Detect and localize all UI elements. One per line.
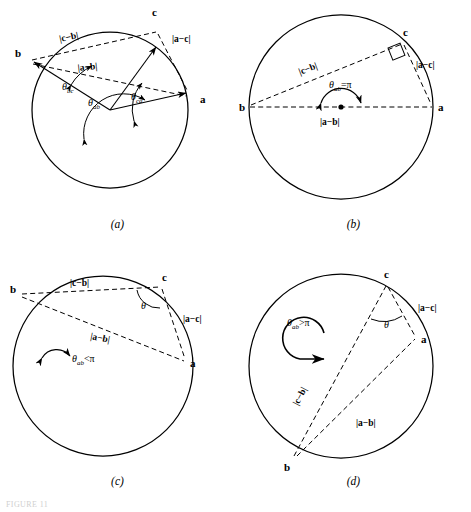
panel-a: a b c |c−b| |a−c| |a−b| θbc θab θca (a) bbox=[0, 0, 235, 256]
vertex-label-c: c bbox=[384, 268, 389, 280]
length-label-ac: |a−c| bbox=[416, 60, 435, 70]
length-label-ab: |a−b| bbox=[320, 117, 340, 127]
panel-d: a b c |c−b| |a−c| |a−b| θab>π θ (d) bbox=[236, 256, 471, 512]
vertex-label-b: b bbox=[10, 283, 16, 295]
length-label-ac: |a−c| bbox=[183, 314, 202, 324]
length-label-ab: |a−b| bbox=[90, 331, 111, 345]
figure-container: a b c |c−b| |a−c| |a−b| θbc θab θca (a) bbox=[0, 0, 471, 512]
arc-theta-ab-pi bbox=[321, 88, 361, 103]
angle-annotation-c: θab<π bbox=[72, 353, 95, 367]
vertex-label-a: a bbox=[421, 333, 427, 345]
length-label-cb: |c−b| bbox=[70, 278, 89, 288]
vertex-label-a: a bbox=[200, 93, 206, 105]
angle-label-theta-ab: θab bbox=[88, 97, 100, 111]
vertex-label-c: c bbox=[152, 6, 157, 18]
length-label-ac: |a−c| bbox=[418, 303, 437, 313]
chord-ca bbox=[162, 289, 185, 359]
chord-ca bbox=[388, 287, 415, 336]
length-label-ab: |a−b| bbox=[356, 418, 376, 428]
length-label-cb: |c−b| bbox=[291, 385, 309, 407]
inscribed-angle-label: θ bbox=[141, 300, 146, 311]
panel-caption-a: (a) bbox=[0, 218, 235, 230]
inscribed-angle-label: θ bbox=[384, 319, 389, 330]
panel-c: a b c |c−b| |a−c| |a−b| θab<π θ (c) bbox=[0, 256, 235, 512]
vertex-label-b: b bbox=[239, 101, 245, 113]
panel-caption-d: (d) bbox=[236, 475, 471, 487]
vertex-label-a: a bbox=[438, 101, 444, 113]
chord-bc bbox=[32, 32, 156, 60]
chord-ba bbox=[22, 297, 184, 361]
angle-annotation-d: θab>π bbox=[287, 317, 310, 331]
vector-to-a bbox=[110, 93, 186, 110]
vertex-label-c: c bbox=[162, 271, 167, 283]
vertex-label-c: c bbox=[403, 26, 408, 38]
vertex-label-b: b bbox=[284, 461, 290, 473]
vertex-label-b: b bbox=[15, 47, 21, 59]
chord-ba bbox=[33, 64, 186, 96]
right-angle-marker bbox=[388, 43, 405, 60]
small-arc-arrow bbox=[42, 350, 70, 358]
panel-caption-c: (c) bbox=[0, 475, 235, 487]
length-label-cb: |c−b| bbox=[58, 30, 79, 44]
panel-caption-b: (b) bbox=[236, 218, 471, 230]
centre-dot bbox=[338, 104, 343, 109]
circle-outline-d bbox=[249, 274, 433, 458]
length-label-ac: |a−c| bbox=[172, 34, 191, 44]
chord-bc bbox=[251, 44, 402, 105]
vertex-label-a: a bbox=[190, 357, 196, 369]
length-label-ab: |a−b| bbox=[77, 61, 98, 73]
circle-outline-c bbox=[13, 276, 193, 456]
chord-bc bbox=[22, 287, 160, 294]
chord-bc bbox=[294, 286, 386, 456]
panel-b: a b c |c−b| |a−c| |a−b| θab=π (b) bbox=[236, 0, 471, 256]
figure-caption: FIGURE 11 bbox=[6, 500, 48, 509]
length-label-cb: |c−b| bbox=[297, 61, 318, 77]
